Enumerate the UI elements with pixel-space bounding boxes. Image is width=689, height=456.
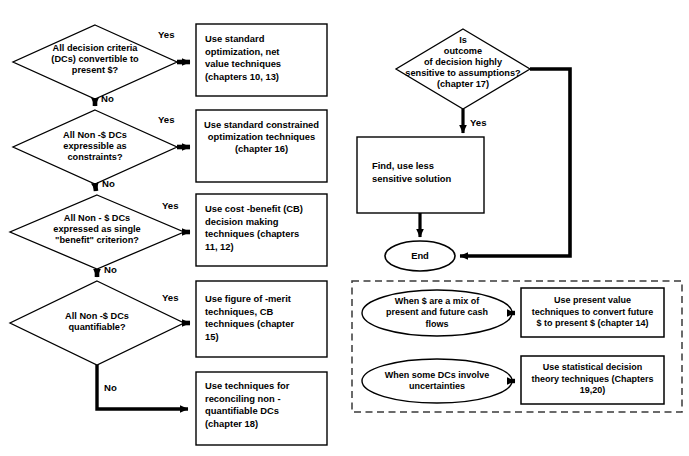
edge-label-d4-yes: Yes: [162, 292, 179, 303]
outcome-2-label: Use standard constrained optimization te…: [199, 119, 324, 156]
note-2-action-label: Use statistical decision theory techniqu…: [524, 362, 661, 397]
edge-label-d1-no: No: [101, 93, 114, 104]
decision-2-label: All Non -$ DCs expressible as constraint…: [27, 130, 163, 163]
outcome-5-label: Use techniques for reconciling non - qua…: [205, 380, 323, 431]
edge-label-d1-yes: Yes: [158, 29, 175, 40]
decision-1-label: All decision criteria (DCs) convertible …: [23, 43, 167, 76]
edge-label-d5-yes: Yes: [470, 117, 487, 128]
note-1-condition-label: When $ are a mix of present and future c…: [368, 296, 506, 330]
decision-5-label: Is outcome of decision highly sensitive …: [370, 35, 556, 90]
outcome-4-label: Use figure of -merit techniques, CB tech…: [205, 293, 323, 344]
edge-d2-no: [95, 184, 96, 191]
process-label: Find, use less sensitive solution: [372, 160, 482, 185]
outcome-1-label: Use standard optimization, net value tec…: [205, 33, 323, 84]
note-1-action-label: Use present value techniques to convert …: [524, 295, 661, 330]
end-label: End: [390, 250, 450, 261]
flowchart-canvas: All decision criteria (DCs) convertible …: [0, 0, 689, 456]
edge-label-d2-no: No: [102, 178, 115, 189]
edge-label-d4-no: No: [104, 382, 117, 393]
edge-label-d3-no: No: [104, 264, 117, 275]
decision-4-label: All Non -$ DCs quantifiable?: [32, 311, 162, 333]
outcome-3-label: Use cost -benefit (CB) decision making t…: [205, 203, 323, 254]
decision-3-label: All Non - $ DCs expressed as single "ben…: [25, 213, 169, 246]
edge-label-d2-yes: Yes: [158, 114, 175, 125]
edge-label-d3-yes: Yes: [162, 200, 179, 211]
note-2-condition-label: When some DCs involve uncertainties: [366, 370, 508, 393]
